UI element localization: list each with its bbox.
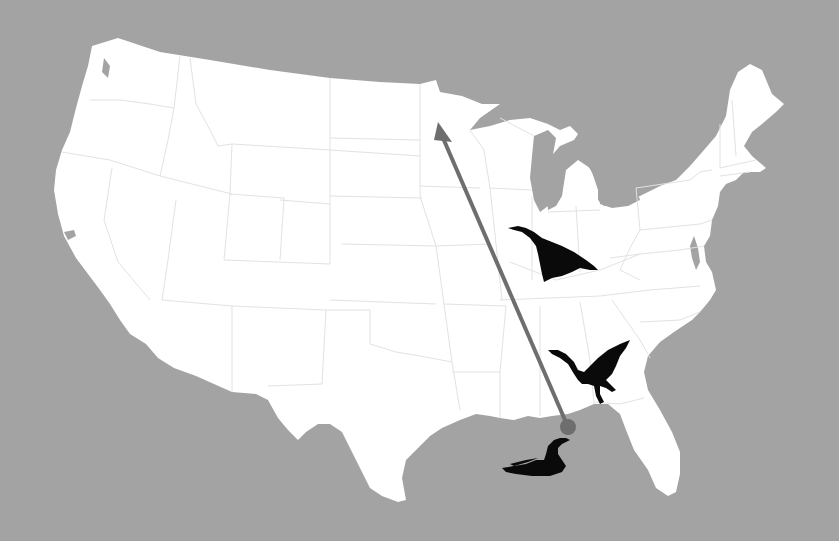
duck-swimming-icon — [502, 438, 570, 476]
migration-map: Contiguous United States Northward migra… — [0, 0, 839, 541]
us-landmass — [54, 38, 784, 502]
us-map — [0, 0, 839, 541]
route-start-marker — [560, 419, 576, 435]
